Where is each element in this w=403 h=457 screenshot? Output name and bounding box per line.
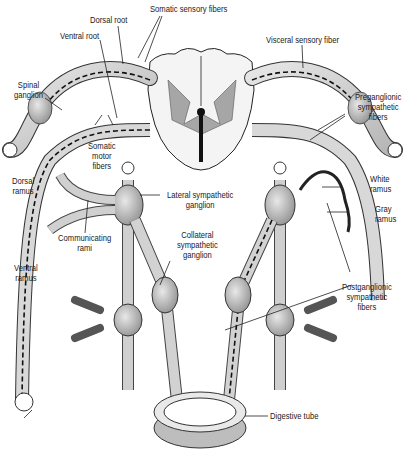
label-spinal-ganglion: Spinal ganglion: [14, 80, 43, 100]
label-dorsal-root: Dorsal root: [90, 15, 127, 25]
label-somatic-sensory-fibers: Somatic sensory fibers: [150, 4, 227, 14]
label-communicating-rami: Communicating rami: [58, 233, 111, 253]
label-gray-ramus: Gray ramus: [375, 204, 396, 224]
label-collateral-sympathetic-ganglion: Collateral sympathetic ganglion: [177, 230, 218, 260]
label-dorsal-ramus: Dorsal ramus: [12, 176, 34, 196]
label-visceral-sensory-fiber: Visceral sensory fiber: [266, 35, 339, 45]
label-postganglionic-sympathetic-fibers: Postganglionic sympathetic fibers: [342, 282, 392, 312]
label-lateral-sympathetic-ganglion: Lateral sympathetic ganglion: [167, 190, 233, 210]
diagram-canvas: [0, 0, 403, 457]
label-white-ramus: White ramus: [370, 174, 391, 194]
label-ventral-ramus: Ventral ramus: [14, 263, 38, 283]
label-ventral-root: Ventral root: [60, 31, 99, 41]
spinal-cord: [148, 48, 254, 170]
label-digestive-tube: Digestive tube: [270, 411, 318, 421]
label-somatic-motor-fibers: Somatic motor fibers: [88, 141, 116, 171]
label-preganglionic-sympathetic-fibers: Preganglionic sympathetic fibers: [355, 92, 401, 122]
digestive-tube-ring: [154, 392, 246, 448]
